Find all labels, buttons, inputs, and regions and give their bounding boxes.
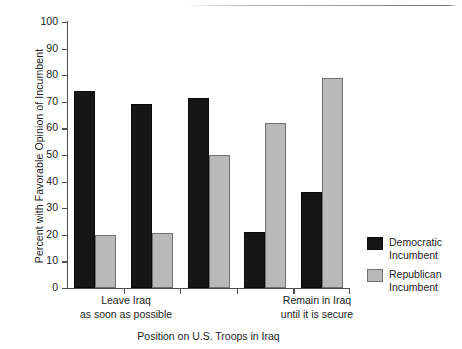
bar-democratic-group-4 xyxy=(244,232,265,288)
bar-democratic-group-2 xyxy=(131,104,152,288)
x-category-label-right-line1: Remain in Iraq xyxy=(252,294,382,308)
y-axis-tick-label: 0 xyxy=(32,280,58,295)
legend-item-democratic: Democratic Incumbent xyxy=(367,236,459,261)
y-axis-tick: 40 xyxy=(62,182,67,183)
x-category-label-left-line2: as soon as possible xyxy=(61,308,191,322)
y-axis-tick-label: 90 xyxy=(32,41,58,56)
y-axis-tick-label: 80 xyxy=(32,67,58,82)
y-axis-tick-label: 40 xyxy=(32,174,58,189)
y-axis-tick-label: 10 xyxy=(32,253,58,268)
y-axis-tick: 50 xyxy=(62,155,67,156)
y-axis-tick-label: 20 xyxy=(32,227,58,242)
bar-republican-group-2 xyxy=(152,233,173,288)
legend-item-republican: Republican Incumbent xyxy=(367,268,459,293)
y-axis-tick: 20 xyxy=(62,235,67,236)
legend-swatch-republican-icon xyxy=(367,269,383,282)
y-axis-tick: 10 xyxy=(62,261,67,262)
y-axis-line xyxy=(67,21,68,289)
x-axis-tick xyxy=(237,288,238,294)
x-axis-line xyxy=(67,288,350,289)
y-axis-tick: 0 xyxy=(62,288,67,289)
bar-republican-group-3 xyxy=(209,155,230,288)
x-category-label-left-line1: Leave Iraq xyxy=(61,294,191,308)
chart-legend: Democratic Incumbent Republican Incumben… xyxy=(367,236,459,300)
y-axis-tick-label: 50 xyxy=(32,147,58,162)
bar-democratic-group-1 xyxy=(74,91,95,288)
y-axis-tick-label: 100 xyxy=(32,14,58,29)
legend-swatch-democratic-icon xyxy=(367,237,383,250)
y-axis-tick-label: 30 xyxy=(32,200,58,215)
bar-democratic-group-5 xyxy=(301,192,322,288)
y-axis-tick: 60 xyxy=(62,128,67,129)
y-axis-tick-label: 70 xyxy=(32,94,58,109)
plot-area: 0102030405060708090100 xyxy=(67,22,350,288)
bar-republican-group-1 xyxy=(95,235,116,288)
y-axis-tick: 90 xyxy=(62,49,67,50)
legend-label-republican: Republican Incumbent xyxy=(389,268,442,293)
y-axis-tick: 80 xyxy=(62,75,67,76)
bar-republican-group-4 xyxy=(265,123,286,288)
y-axis-tick: 70 xyxy=(62,102,67,103)
y-axis-tick: 100 xyxy=(62,22,67,23)
x-axis-title: Position on U.S. Troops in Iraq xyxy=(67,330,350,342)
bar-republican-group-5 xyxy=(322,78,343,288)
legend-label-democratic: Democratic Incumbent xyxy=(389,236,442,261)
x-category-label-right-line2: until it is secure xyxy=(252,308,382,322)
x-category-label-right: Remain in Iraq until it is secure xyxy=(252,294,382,321)
y-axis-tick: 30 xyxy=(62,208,67,209)
y-axis-tick-label: 60 xyxy=(32,120,58,135)
x-category-label-left: Leave Iraq as soon as possible xyxy=(61,294,191,321)
bar-democratic-group-3 xyxy=(188,98,209,288)
bar-chart-figure: Percent with Favorable Opinion of Incumb… xyxy=(0,0,462,349)
